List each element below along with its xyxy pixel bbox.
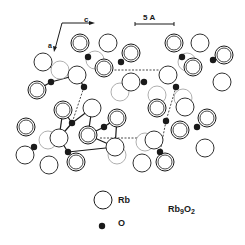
legend-o-symbol (99, 223, 105, 229)
rb-atom-double-ring (67, 153, 85, 171)
rb-atom-double-ring (54, 101, 72, 119)
rb-atom-double-ring (198, 109, 216, 127)
rb-atom-double-ring (156, 153, 174, 171)
o-atom (194, 124, 200, 130)
a-axis-arrow (55, 23, 62, 49)
rb-atom (191, 34, 209, 52)
o-atom (179, 54, 185, 60)
rb-atom-double-ring (215, 46, 233, 64)
rb-atom (122, 73, 140, 91)
rb-atom-double-ring (28, 81, 46, 99)
a-axis-label: a (48, 42, 52, 49)
rb-atom-double-ring (165, 34, 183, 52)
o-atom (141, 79, 147, 85)
formula-label: Rb9O2 (168, 205, 195, 215)
a-arrowhead-icon (53, 46, 57, 52)
rb-atom-double-ring (95, 59, 113, 77)
o-atom (163, 118, 169, 124)
rb-atom-double-ring (148, 99, 166, 117)
rb-atom-double-ring (122, 44, 140, 62)
rb-atom (196, 139, 214, 157)
o-atom (81, 84, 87, 90)
rb-atom (40, 156, 58, 174)
o-atom (173, 84, 179, 90)
o-atom (118, 59, 124, 65)
rb-atom-double-ring (79, 126, 97, 144)
rb-atom (106, 138, 124, 156)
o-atom (85, 54, 91, 60)
legend-rb-symbol (94, 191, 112, 209)
bond-dashed (72, 87, 84, 123)
rb-atom (50, 129, 68, 147)
rb-atom (145, 131, 163, 149)
c-axis-label: c (84, 16, 88, 24)
legend-rb-label: Rb (118, 196, 130, 205)
o-atom (48, 79, 54, 85)
scale-bar-label: 5 A (143, 14, 155, 22)
o-atom (157, 149, 163, 155)
rb-atom (99, 34, 117, 52)
o-atom (101, 124, 107, 130)
rb-atom-double-ring (71, 34, 89, 52)
rb-atom-double-ring (17, 118, 35, 136)
scale-bar (135, 22, 174, 26)
rb-atom (176, 98, 194, 116)
rb-atom (159, 66, 177, 84)
rb-atom-back (51, 61, 69, 79)
rb-atom-double-ring (171, 121, 189, 139)
crystal-structure-diagram (0, 0, 245, 245)
rb-atom (83, 99, 101, 117)
o-atom (31, 144, 37, 150)
o-atom (65, 149, 71, 155)
rb-atom (68, 66, 86, 84)
o-atom (69, 120, 75, 126)
rb-atom (213, 73, 231, 91)
o-atom (210, 57, 216, 63)
rb-atom-double-ring (184, 58, 202, 76)
legend-o-label: O (118, 219, 125, 228)
rb-atom-double-ring (108, 109, 126, 127)
bond-dashed (166, 87, 176, 121)
rb-atom (133, 154, 151, 172)
rb-atom (34, 53, 52, 71)
c-arrowhead-icon (89, 21, 95, 25)
